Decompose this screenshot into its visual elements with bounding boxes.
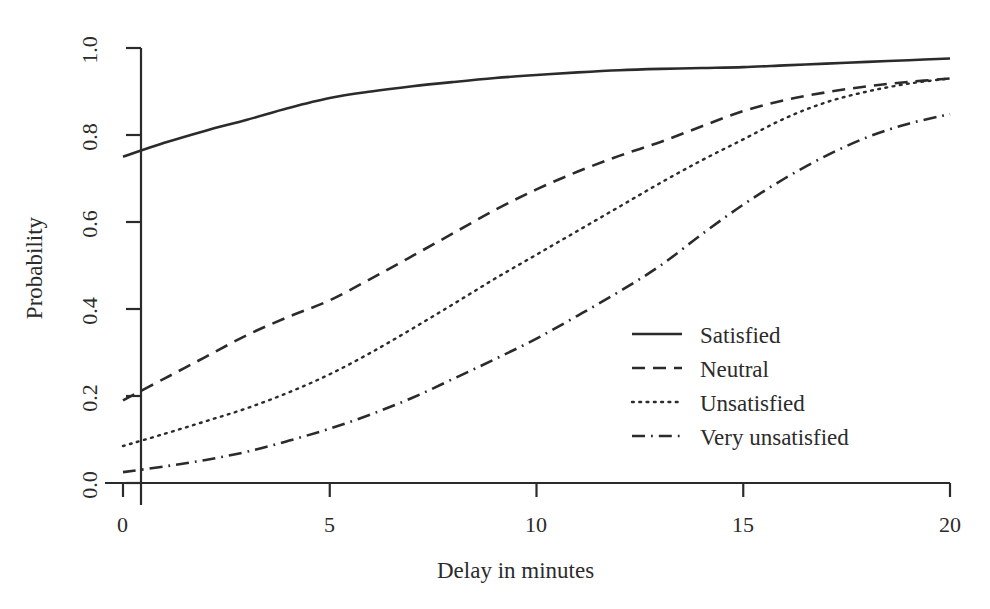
xtick-label-0: 0 (117, 512, 128, 538)
xtick-label-1: 5 (324, 512, 335, 538)
xtick-label-3: 15 (732, 512, 754, 538)
ytick-label-2: 0.4 (77, 281, 103, 341)
legend-label-very-unsatisfied: Very unsatisfied (700, 425, 849, 451)
series-line-very-unsatisfied (123, 114, 950, 472)
legend-label-unsatisfied: Unsatisfied (700, 391, 805, 417)
ytick-label-1: 0.2 (77, 368, 103, 428)
series-line-neutral (123, 78, 950, 400)
ytick-label-3: 0.6 (77, 194, 103, 254)
ytick-label-0: 0.0 (77, 455, 103, 515)
series-line-satisfied (123, 58, 950, 156)
chart-figure: 0.0 0.2 0.4 0.6 0.8 1.0 0 5 10 15 20 Pro… (0, 0, 990, 609)
legend-label-neutral: Neutral (700, 357, 769, 383)
xtick-label-2: 10 (525, 512, 547, 538)
y-axis-title: Probability (22, 188, 48, 348)
x-axis-title: Delay in minutes (437, 558, 594, 584)
plot-canvas (0, 0, 990, 609)
xtick-label-4: 20 (939, 512, 961, 538)
legend-label-satisfied: Satisfied (700, 323, 781, 349)
series-line-unsatisfied (123, 78, 950, 446)
legend-line-samples (632, 334, 682, 436)
ytick-label-4: 0.8 (77, 107, 103, 167)
ytick-label-5: 1.0 (77, 20, 103, 80)
series-layer (123, 58, 950, 472)
